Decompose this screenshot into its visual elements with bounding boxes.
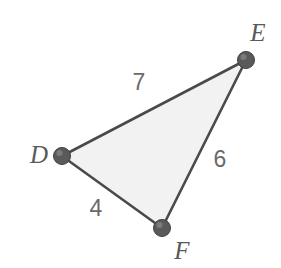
side-length-df: 4 — [90, 195, 103, 221]
triangle-diagram: D E F 7 6 4 — [0, 0, 281, 268]
vertex-dot-e — [238, 52, 255, 69]
vertex-label-f: F — [173, 237, 190, 264]
vertex-dot-f — [154, 220, 171, 237]
vertex-dot-d-highlight — [57, 150, 63, 156]
vertex-label-e: E — [249, 19, 265, 46]
vertex-dot-f-highlight — [157, 222, 163, 228]
vertex-dot-d — [54, 148, 71, 165]
side-length-de: 7 — [133, 69, 146, 95]
vertex-dot-e-highlight — [241, 54, 247, 60]
side-length-ef: 6 — [214, 146, 227, 172]
vertex-label-d: D — [29, 141, 48, 168]
